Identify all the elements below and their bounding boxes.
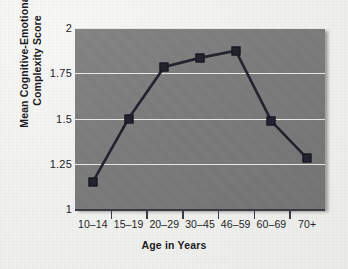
x-axis-tick bbox=[146, 210, 147, 219]
y-axis-tick-label: 1.75 bbox=[28, 67, 72, 79]
x-axis-tick-label: 60–69 bbox=[257, 218, 287, 230]
y-axis-tick-label: 1 bbox=[28, 203, 72, 215]
x-axis-tick bbox=[182, 210, 183, 219]
y-axis-tick-label: 2 bbox=[28, 22, 72, 34]
gridline bbox=[75, 164, 325, 165]
data-point-marker bbox=[196, 53, 205, 62]
gridline bbox=[75, 73, 325, 74]
x-axis-tick-label: 30–45 bbox=[185, 218, 215, 230]
x-axis-line bbox=[75, 209, 325, 211]
data-point-marker bbox=[267, 117, 276, 126]
x-axis-tick-label: 10–14 bbox=[78, 218, 108, 230]
gridline bbox=[75, 119, 325, 120]
chart-figure: Mean Cognitive-Emotional Complexity Scor… bbox=[0, 0, 348, 269]
x-axis-tick bbox=[254, 210, 255, 219]
x-axis-tick bbox=[111, 210, 112, 219]
data-point-marker bbox=[124, 114, 133, 123]
gridline bbox=[75, 28, 325, 29]
data-point-marker bbox=[231, 46, 240, 55]
x-axis-tick-label: 70+ bbox=[298, 218, 316, 230]
x-axis-tick-label: 46–59 bbox=[221, 218, 251, 230]
x-axis-tick-label: 15–19 bbox=[114, 218, 144, 230]
data-point-marker bbox=[160, 62, 169, 71]
x-axis-title: Age in Years bbox=[0, 239, 348, 251]
x-axis-tick bbox=[218, 210, 219, 219]
y-axis-tick-labels: 11.251.51.752 bbox=[26, 0, 72, 269]
y-axis-tick-label: 1.25 bbox=[28, 158, 72, 170]
x-axis-tick bbox=[289, 210, 290, 219]
data-point-marker bbox=[303, 154, 312, 163]
y-axis-tick-label: 1.5 bbox=[28, 113, 72, 125]
data-point-marker bbox=[88, 177, 97, 186]
x-axis-tick-label: 20–29 bbox=[149, 218, 179, 230]
